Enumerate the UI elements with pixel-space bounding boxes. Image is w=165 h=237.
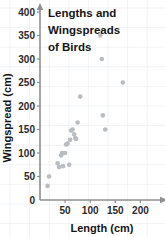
x-axis-title: Length (cm) (71, 222, 134, 234)
data-point (99, 57, 104, 62)
y-tick-label: 400 (18, 7, 35, 18)
x-tick-labels: 50100150200 (60, 205, 150, 216)
y-tick-label: 250 (18, 77, 35, 88)
y-tick-labels: 050100150200250300350400 (18, 7, 35, 206)
data-point (70, 127, 75, 132)
y-tick-label: 100 (18, 148, 35, 159)
data-point (121, 80, 126, 85)
data-point (47, 174, 52, 179)
y-axis-title: Wingspread (cm) (1, 73, 13, 162)
data-point (65, 141, 70, 146)
data-point (78, 94, 83, 99)
y-tick-label: 150 (18, 124, 35, 135)
data-point (103, 127, 108, 132)
x-tick-label: 50 (60, 205, 72, 216)
scatter-chart: 050100150200250300350400 50100150200 Len… (0, 0, 165, 237)
chart-title: Lengths andWingspreadsof Birds (48, 7, 120, 53)
data-point (61, 164, 66, 169)
data-point (75, 120, 80, 125)
data-point (57, 165, 62, 170)
data-point (63, 151, 68, 156)
y-tick-label: 300 (18, 54, 35, 65)
data-point (74, 137, 79, 142)
data-point (68, 138, 73, 143)
chart-title-line: Lengths and (48, 7, 116, 19)
chart-canvas: 050100150200250300350400 50100150200 Len… (0, 0, 165, 237)
y-tick-label: 350 (18, 30, 35, 41)
y-tick-label: 0 (29, 195, 35, 206)
x-tick-label: 100 (82, 205, 99, 216)
y-tick-label: 200 (18, 101, 35, 112)
chart-title-line: of Birds (48, 41, 91, 53)
y-tick-label: 50 (24, 171, 36, 182)
x-tick-label: 200 (132, 205, 149, 216)
x-tick-label: 150 (107, 205, 124, 216)
data-point (67, 162, 72, 167)
data-point (100, 113, 105, 118)
data-point (45, 184, 50, 189)
chart-title-line: Wingspreads (48, 24, 120, 36)
